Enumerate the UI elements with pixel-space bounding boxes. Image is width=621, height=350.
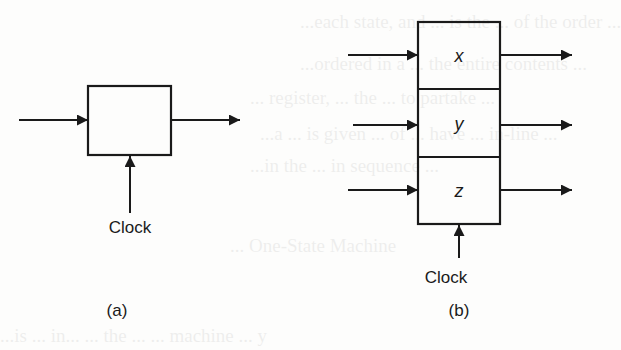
clock-label: Clock (425, 268, 468, 287)
panel-a: Clock (a) (19, 86, 240, 320)
cell-label-x: x (454, 46, 465, 66)
caption-a: (a) (107, 301, 128, 320)
clock-label: Clock (109, 218, 152, 237)
cell-label-z: z (454, 181, 464, 201)
caption-b: (b) (449, 301, 470, 320)
cell-label-y: y (453, 114, 465, 134)
panel-b: x y z Clock (b) (348, 22, 572, 320)
register-box (88, 86, 171, 155)
